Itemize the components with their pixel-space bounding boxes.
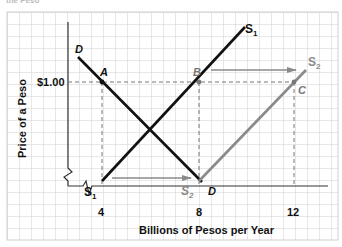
label-B: B xyxy=(193,66,201,78)
point-C xyxy=(292,80,297,85)
point-A xyxy=(100,80,105,85)
exchange-rate-diagram: the Peso A B C D D S1 S1 S2 S2 $1.00 4 xyxy=(0,0,342,247)
cut-off-header: the Peso xyxy=(6,0,39,5)
x-tick-4: 4 xyxy=(98,206,105,218)
label-C: C xyxy=(298,84,307,96)
x-axis-title: Billions of Pesos per Year xyxy=(139,224,275,236)
label-D-top: D xyxy=(75,43,83,55)
point-B xyxy=(197,80,202,85)
x-tick-12: 12 xyxy=(287,206,299,218)
y-tick-price: $1.00 xyxy=(37,76,65,88)
x-tick-8: 8 xyxy=(196,206,202,218)
y-axis-title: Price of a Peso xyxy=(16,79,28,158)
label-D-bottom: D xyxy=(208,185,216,197)
label-A: A xyxy=(99,66,108,78)
